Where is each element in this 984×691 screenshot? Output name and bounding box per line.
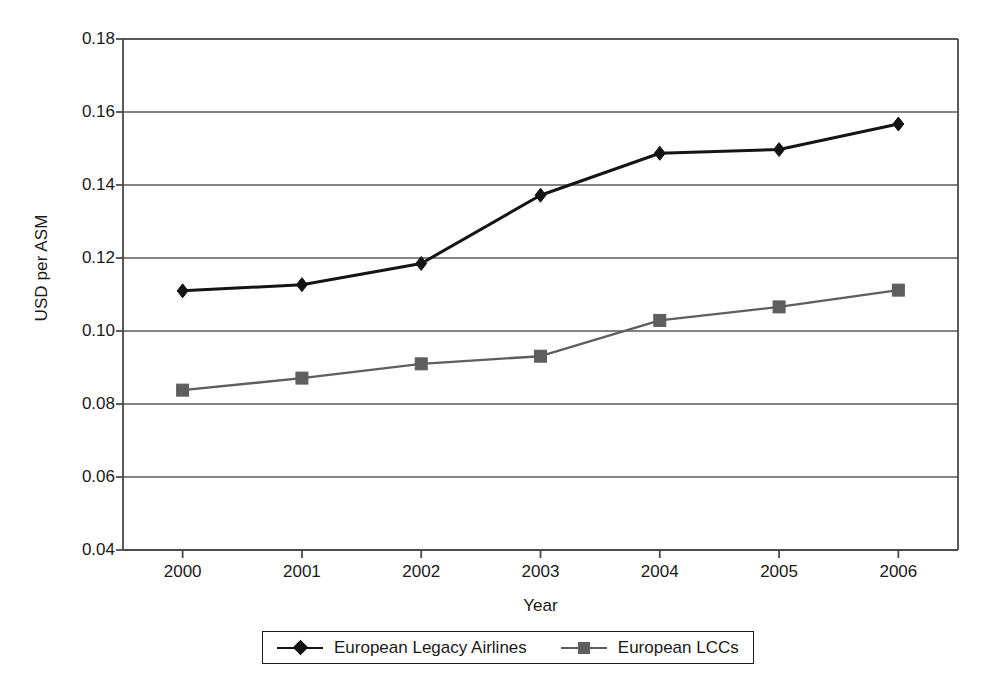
series-line-0 bbox=[183, 124, 899, 291]
data-point-marker bbox=[296, 278, 307, 292]
series-line-1 bbox=[183, 290, 899, 390]
data-point-marker bbox=[535, 188, 546, 202]
chart-legend: European Legacy AirlinesEuropean LCCs bbox=[262, 631, 754, 664]
x-axis-title: Year bbox=[123, 596, 958, 616]
data-point-marker bbox=[773, 301, 785, 313]
x-tick-label: 2001 bbox=[257, 562, 347, 582]
x-tick-label: 2005 bbox=[734, 562, 824, 582]
data-point-marker bbox=[296, 372, 308, 384]
diamond-marker-icon bbox=[292, 640, 308, 656]
legend-swatch bbox=[561, 640, 607, 656]
legend-label: European LCCs bbox=[618, 638, 739, 658]
data-point-marker bbox=[415, 358, 427, 370]
data-point-marker bbox=[654, 146, 665, 160]
data-point-marker bbox=[535, 350, 547, 362]
data-point-marker bbox=[654, 314, 666, 326]
x-tick-label: 2004 bbox=[615, 562, 705, 582]
data-point-marker bbox=[892, 284, 904, 296]
x-tick-label: 2006 bbox=[853, 562, 943, 582]
data-point-marker bbox=[893, 117, 904, 131]
data-point-marker bbox=[774, 143, 785, 157]
data-point-marker bbox=[177, 284, 188, 298]
legend-entry[interactable]: European Legacy Airlines bbox=[277, 638, 527, 658]
x-tick-label: 2000 bbox=[138, 562, 228, 582]
data-point-marker bbox=[177, 384, 189, 396]
chart-figure: USD per ASM 0.040.060.080.100.120.140.16… bbox=[0, 0, 984, 691]
plot-area bbox=[0, 0, 984, 691]
x-tick-label: 2003 bbox=[496, 562, 586, 582]
legend-entry[interactable]: European LCCs bbox=[561, 638, 739, 658]
legend-label: European Legacy Airlines bbox=[334, 638, 527, 658]
x-tick-label: 2002 bbox=[376, 562, 466, 582]
square-marker-icon bbox=[578, 642, 590, 654]
legend-swatch bbox=[277, 640, 323, 656]
